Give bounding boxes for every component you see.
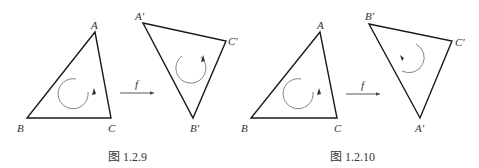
figure-caption: 图 1.2.10 [330,150,375,164]
figure-caption: 图 1.2.9 [108,150,147,164]
image-triangle [143,23,226,118]
image-triangle [369,24,452,118]
vertex-label-c: C [334,122,342,134]
figure-1-2-9: A B C f A′ C′ B′ 图 1.2.9 [17,10,238,164]
orientation-arrowhead-icon [400,55,404,61]
orientation-arc-clockwise [176,56,206,83]
vertex-label-c-prime: C′ [455,36,465,48]
map-label-f: f [361,79,366,91]
vertex-label-a-prime: A′ [134,10,145,22]
orientation-arrowhead-icon [317,88,321,95]
vertex-label-c-prime: C′ [228,35,238,47]
source-triangle-abc [251,32,337,118]
vertex-label-a: A [90,19,98,31]
source-triangle-abc [27,32,111,118]
vertex-label-a-prime: A′ [414,122,425,134]
map-label-f: f [135,78,140,90]
vertex-label-b: B [17,122,24,134]
orientation-arrowhead-icon [201,55,205,62]
diagram-canvas: A B C f A′ C′ B′ 图 1.2.9 A B C f B′ C′ A… [0,0,479,168]
orientation-arc-counterclockwise [402,44,424,73]
vertex-label-b-prime: B′ [365,10,375,22]
vertex-label-a: A [316,19,324,31]
orientation-arrowhead-icon [92,88,96,95]
vertex-label-b: B [241,122,248,134]
vertex-label-c: C [108,122,116,134]
figure-1-2-10: A B C f B′ C′ A′ 图 1.2.10 [241,10,465,164]
vertex-label-b-prime: B′ [190,122,200,134]
orientation-arc-clockwise [58,79,88,109]
orientation-arc-clockwise [283,79,313,109]
